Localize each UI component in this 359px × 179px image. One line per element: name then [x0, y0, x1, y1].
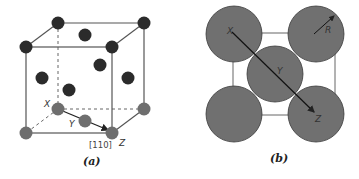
crystal-structure-figure: X Y Z [110] (a) X Y Z R (b)	[0, 0, 359, 179]
corner-atom	[52, 17, 65, 30]
label-x: X	[43, 99, 51, 109]
label-y: Y	[69, 119, 76, 129]
corner-atom-top-right	[288, 6, 344, 62]
bottom-corner-atom	[106, 127, 119, 140]
face-center-atom	[122, 72, 135, 85]
face-center-atom	[36, 72, 49, 85]
label-z: Z	[314, 114, 322, 124]
face-center-atom	[63, 84, 76, 97]
label-x: X	[226, 26, 234, 36]
corner-atom	[106, 41, 119, 54]
face-center-atom	[94, 59, 107, 72]
caption-b: (b)	[270, 152, 288, 165]
direction-label: [110]	[89, 140, 112, 150]
face-center-atom	[79, 29, 92, 42]
caption-a: (a)	[83, 155, 101, 168]
corner-atom-bottom-left	[206, 86, 262, 142]
bottom-face-center-atom	[79, 115, 92, 128]
label-radius: R	[325, 25, 331, 35]
label-z: Z	[118, 138, 126, 148]
fcc-unit-cell-diagram: X Y Z [110] (a)	[20, 17, 151, 169]
bottom-corner-atom	[52, 103, 65, 116]
bottom-corner-atom	[138, 103, 151, 116]
corner-atom	[138, 17, 151, 30]
bottom-corner-atom	[20, 127, 33, 140]
corner-atom	[20, 41, 33, 54]
plane-packing-diagram: X Y Z R (b)	[206, 6, 344, 165]
